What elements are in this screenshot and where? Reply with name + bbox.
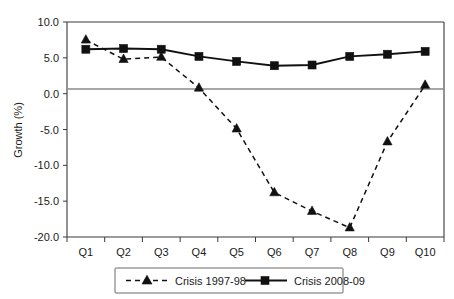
data-point-square-marker — [421, 47, 429, 55]
x-tick-label: Q4 — [192, 246, 207, 258]
data-point-square-marker — [308, 61, 316, 69]
legend-label-crisis-1997-98: Crisis 1997-98 — [175, 275, 246, 287]
growth-comparison-chart: 10.05.00.0-5.0-10.0-15.0-20.0 Growth (%)… — [0, 0, 454, 299]
y-axis-title: Growth (%) — [12, 102, 24, 158]
data-point-square-marker — [195, 52, 203, 60]
x-axis-ticks: Q1Q2Q3Q4Q5Q6Q7Q8Q9Q10 — [67, 237, 444, 258]
y-axis-ticks: 10.05.00.0-5.0-10.0-15.0-20.0 — [34, 16, 67, 243]
data-point-triangle-marker — [194, 83, 203, 91]
data-point-triangle-marker — [421, 80, 430, 88]
series-line — [86, 40, 425, 228]
y-tick-label: 0.0 — [44, 88, 59, 100]
data-point-square-marker — [346, 52, 354, 60]
data-point-square-marker — [82, 45, 90, 53]
y-tick-label: -5.0 — [40, 124, 59, 136]
chart-legend: Crisis 1997-98 Crisis 2008-09 — [115, 268, 365, 293]
data-point-square-marker — [157, 45, 165, 53]
series-layer — [81, 35, 430, 231]
data-point-square-marker — [233, 57, 241, 65]
data-point-triangle-marker — [232, 124, 241, 132]
data-point-triangle-marker — [270, 187, 279, 195]
data-point-triangle-marker — [345, 222, 354, 230]
y-tick-label: -20.0 — [34, 231, 59, 243]
square-icon — [261, 277, 269, 285]
series-line — [86, 49, 425, 66]
data-point-square-marker — [120, 45, 128, 53]
y-tick-label: -15.0 — [34, 195, 59, 207]
data-point-triangle-marker — [383, 136, 392, 144]
x-tick-label: Q2 — [116, 246, 131, 258]
x-tick-label: Q7 — [305, 246, 320, 258]
data-point-square-marker — [383, 50, 391, 58]
x-tick-label: Q10 — [415, 246, 436, 258]
legend-entry-crisis-2008-09: Crisis 2008-09 — [245, 275, 365, 287]
data-point-triangle-marker — [81, 35, 90, 43]
data-point-square-marker — [270, 62, 278, 70]
y-tick-label: -10.0 — [34, 159, 59, 171]
x-tick-label: Q9 — [380, 246, 395, 258]
x-tick-label: Q6 — [267, 246, 282, 258]
series-crisis-2008-09 — [82, 45, 429, 70]
y-tick-label: 5.0 — [44, 52, 59, 64]
legend-label-crisis-2008-09: Crisis 2008-09 — [294, 275, 365, 287]
x-tick-label: Q8 — [342, 246, 357, 258]
x-tick-label: Q5 — [229, 246, 244, 258]
y-tick-label: 10.0 — [38, 16, 59, 28]
x-tick-label: Q3 — [154, 246, 169, 258]
x-tick-label: Q1 — [79, 246, 94, 258]
